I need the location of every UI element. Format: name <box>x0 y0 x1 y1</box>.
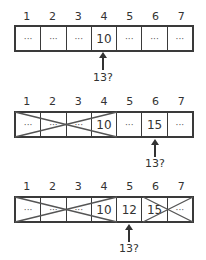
array-cell: ··· <box>16 113 41 136</box>
index-label: 7 <box>168 95 194 109</box>
array-cell: ··· <box>168 27 192 50</box>
array-row: ··· ··· ··· 10 ··· 15 ··· <box>14 111 194 138</box>
index-label: 4 <box>91 10 117 24</box>
index-row: 1 2 3 4 5 6 7 <box>14 10 194 24</box>
array-cell: 10 <box>92 113 117 136</box>
array-row: ··· ··· ··· 10 ··· ··· ··· <box>14 25 194 52</box>
index-label: 4 <box>91 180 117 194</box>
array-cell: ··· <box>67 113 92 136</box>
array-cell: ··· <box>41 27 66 50</box>
index-label: 4 <box>91 95 117 109</box>
index-label: 3 <box>65 95 91 109</box>
index-label: 7 <box>168 180 194 194</box>
query-label: 13? <box>114 242 144 255</box>
index-label: 1 <box>14 10 40 24</box>
array-cell: ··· <box>67 198 92 221</box>
array-cell: 10 <box>92 198 117 221</box>
index-label: 7 <box>168 10 194 24</box>
array-cell: ··· <box>67 27 92 50</box>
index-label: 6 <box>143 95 169 109</box>
array-cell: 15 <box>142 113 167 136</box>
array-row: ··· ··· ··· 10 12 15 ··· <box>14 196 194 223</box>
index-label: 2 <box>40 180 66 194</box>
array-cell: 10 <box>92 27 117 50</box>
index-label: 3 <box>65 180 91 194</box>
index-row: 1 2 3 4 5 6 7 <box>14 95 194 109</box>
array-cell: ··· <box>142 27 167 50</box>
array-cell: ··· <box>16 198 41 221</box>
index-label: 2 <box>40 95 66 109</box>
index-label: 6 <box>143 180 169 194</box>
index-label: 1 <box>14 180 40 194</box>
array-cell: ··· <box>168 113 192 136</box>
array-cell: 15 <box>142 198 167 221</box>
index-label: 5 <box>117 10 143 24</box>
array-cell: 12 <box>117 198 142 221</box>
index-label: 1 <box>14 95 40 109</box>
array-cell: ··· <box>41 198 66 221</box>
array-cell: ··· <box>16 27 41 50</box>
up-arrow-icon <box>128 229 130 242</box>
index-label: 6 <box>143 10 169 24</box>
index-label: 3 <box>65 10 91 24</box>
array-cell: ··· <box>41 113 66 136</box>
up-arrow-icon <box>102 57 104 70</box>
up-arrow-icon <box>154 144 156 157</box>
index-row: 1 2 3 4 5 6 7 <box>14 180 194 194</box>
array-cell: ··· <box>168 198 192 221</box>
index-label: 2 <box>40 10 66 24</box>
query-label: 13? <box>140 157 170 170</box>
array-cell: ··· <box>117 27 142 50</box>
index-label: 5 <box>117 95 143 109</box>
index-label: 5 <box>117 180 143 194</box>
array-cell: ··· <box>117 113 142 136</box>
query-label: 13? <box>88 71 118 84</box>
